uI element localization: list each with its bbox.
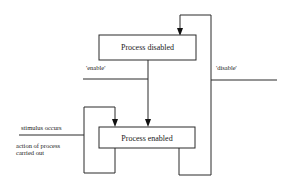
- disable-label: 'disable': [216, 64, 237, 71]
- enable-label: 'enable': [86, 64, 105, 71]
- state-transition-diagram: 'disable' 'enable' stimulus occurs actio…: [0, 0, 292, 188]
- stimulus-label: stimulus occurs: [21, 124, 62, 131]
- arrow-down-icon: [145, 119, 151, 127]
- state-process-disabled: Process disabled: [99, 35, 196, 60]
- action-label-line1: action of process: [16, 142, 61, 149]
- enable-transition: 'enable': [83, 60, 151, 127]
- arrow-down-icon: [112, 119, 118, 127]
- state-process-enabled: Process enabled: [99, 127, 195, 148]
- state-label: Process enabled: [121, 134, 172, 143]
- state-label: Process disabled: [121, 43, 174, 52]
- action-label-line2: carried out: [16, 149, 44, 156]
